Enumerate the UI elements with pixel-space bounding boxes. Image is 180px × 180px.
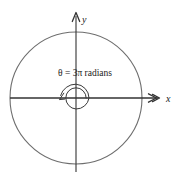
y-axis-label: y [81, 14, 87, 25]
angle-sweep-spiral [61, 84, 89, 109]
angle-annotation-label: θ = 3π radians [58, 68, 112, 78]
x-axis-label: x [165, 93, 171, 104]
angle-diagram-figure: y x θ = 3π radians [0, 0, 180, 180]
diagram-canvas: y x θ = 3π radians [0, 0, 180, 180]
